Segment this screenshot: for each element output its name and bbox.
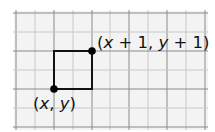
diagram-canvas: (x + 1, y + 1) (x, y)	[0, 0, 215, 132]
label-x-y: (x, y)	[33, 94, 76, 113]
label-x-plus-1-y-plus-1: (x + 1, y + 1)	[97, 33, 210, 52]
unit-square-diagram: (x + 1, y + 1) (x, y)	[0, 0, 215, 132]
point-x1-y1-dot	[88, 47, 96, 55]
point-x-y-dot	[50, 85, 58, 93]
